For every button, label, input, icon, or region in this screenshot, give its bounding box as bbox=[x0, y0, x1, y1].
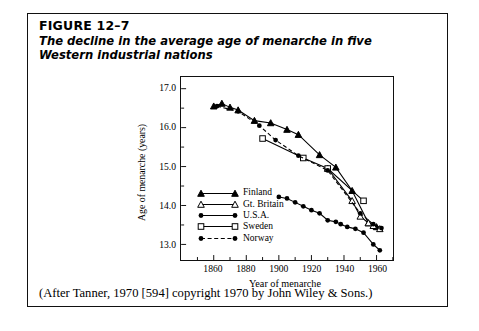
legend-item: U.S.A. bbox=[196, 210, 284, 221]
data-point bbox=[301, 155, 307, 161]
legend-item: Gt. Britain bbox=[196, 199, 284, 210]
data-point bbox=[260, 136, 266, 142]
data-point bbox=[379, 226, 384, 231]
data-point bbox=[198, 224, 204, 230]
figure-caption-line-2: Western industrial nations bbox=[39, 48, 439, 62]
data-point bbox=[353, 226, 358, 231]
data-point bbox=[233, 236, 238, 241]
figure-number: FIGURE 12–7 bbox=[39, 19, 439, 33]
series-line bbox=[279, 197, 380, 250]
y-tick-label: 15.0 bbox=[142, 162, 176, 172]
data-point bbox=[361, 198, 367, 204]
data-point bbox=[358, 211, 363, 216]
data-point bbox=[333, 219, 338, 224]
legend-key-filled-triangle bbox=[196, 188, 240, 199]
data-point bbox=[309, 208, 314, 213]
chart-legend: FinlandGt. BritainU.S.A.SwedenNorway bbox=[196, 187, 284, 243]
legend-label: Norway bbox=[240, 233, 274, 244]
figure-title-block: FIGURE 12–7 The decline in the average a… bbox=[39, 19, 439, 62]
x-tick-label: 1960 bbox=[358, 264, 398, 274]
data-point bbox=[325, 168, 330, 173]
data-point bbox=[296, 153, 301, 158]
data-point bbox=[325, 218, 330, 223]
source-note: (After Tanner, 1970 [594] copyright 1970… bbox=[39, 286, 372, 301]
y-tick-label: 13.0 bbox=[142, 240, 176, 250]
data-point bbox=[338, 222, 343, 227]
figure-box: FIGURE 12–7 The decline in the average a… bbox=[27, 13, 448, 307]
legend-item: Finland bbox=[196, 187, 284, 198]
data-point bbox=[215, 104, 220, 109]
data-point bbox=[257, 123, 262, 128]
legend-label: Gt. Britain bbox=[240, 199, 284, 210]
legend-key-filled-circle bbox=[196, 210, 240, 221]
legend-key-open-square bbox=[196, 221, 240, 232]
legend-label: Finland bbox=[240, 187, 272, 198]
legend-item: Sweden bbox=[196, 221, 284, 232]
data-point bbox=[361, 230, 366, 235]
data-point bbox=[345, 225, 350, 230]
legend-label: Sweden bbox=[240, 221, 273, 232]
data-point bbox=[273, 138, 278, 143]
y-tick-label: 16.0 bbox=[142, 122, 176, 132]
legend-item: Norway bbox=[196, 233, 284, 244]
data-point bbox=[293, 200, 298, 205]
figure-caption-line-1: The decline in the average age of menarc… bbox=[39, 34, 439, 48]
data-point bbox=[236, 109, 241, 114]
data-point bbox=[284, 126, 291, 132]
data-point bbox=[377, 248, 382, 253]
legend-label: U.S.A. bbox=[240, 210, 269, 221]
data-point bbox=[295, 131, 302, 137]
data-point bbox=[301, 204, 306, 209]
figure-caption: The decline in the average age of menarc… bbox=[39, 34, 439, 62]
legend-key-open-triangle bbox=[196, 199, 240, 210]
legend-key-filled-circle bbox=[196, 233, 240, 244]
y-tick-label: 17.0 bbox=[142, 83, 176, 93]
data-point bbox=[371, 222, 376, 227]
data-point bbox=[199, 236, 204, 241]
data-point bbox=[199, 213, 204, 218]
data-point bbox=[371, 242, 376, 247]
data-point bbox=[285, 196, 290, 201]
data-point bbox=[233, 213, 238, 218]
data-point bbox=[317, 211, 322, 216]
data-point bbox=[232, 224, 238, 230]
data-point bbox=[219, 100, 226, 106]
y-tick-label: 14.0 bbox=[142, 201, 176, 211]
